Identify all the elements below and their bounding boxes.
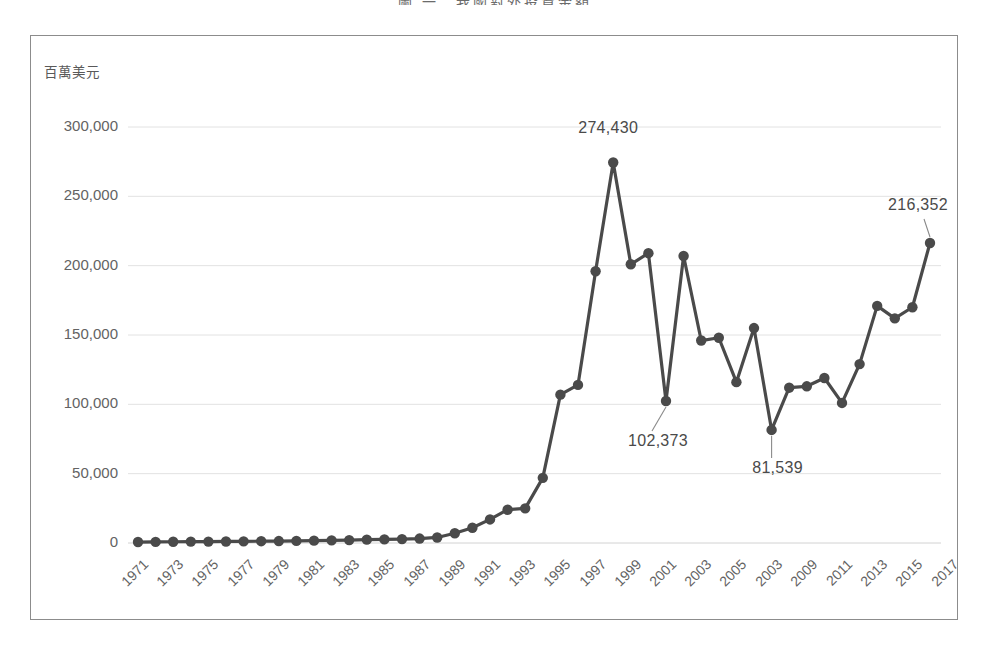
y-axis-unit-label: 百萬美元	[44, 61, 100, 81]
y-axis-tick-label: 250,000	[28, 186, 118, 203]
data-annotation-label: 81,539	[734, 459, 822, 477]
data-annotation-label: 216,352	[874, 196, 962, 214]
y-axis-tick-label: 200,000	[28, 256, 118, 273]
page-title: 圖 一 我國對外投資金額	[0, 0, 990, 5]
chart-frame	[30, 35, 958, 620]
y-axis-tick-label: 50,000	[28, 464, 118, 481]
y-axis-tick-label: 150,000	[28, 325, 118, 342]
y-axis-tick-label: 300,000	[28, 117, 118, 134]
y-axis-tick-label: 0	[28, 533, 118, 550]
data-annotation-label: 102,373	[614, 432, 702, 450]
data-annotation-label: 274,430	[564, 119, 652, 137]
y-axis-tick-label: 100,000	[28, 394, 118, 411]
